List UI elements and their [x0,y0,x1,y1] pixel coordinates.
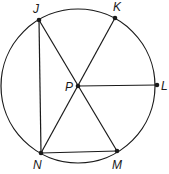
label-k: K [113,0,122,14]
segment-nm [41,151,117,153]
point-m [115,149,120,154]
label-j: J [32,2,40,16]
segment-pl [78,85,157,86]
point-p [76,84,81,89]
diagram-canvas: JKPLNM [0,0,169,174]
label-p: P [65,80,73,94]
label-l: L [161,79,168,93]
segment-jn [39,20,41,153]
point-n [39,151,44,156]
label-m: M [112,158,122,172]
point-j [37,18,42,23]
point-k [113,16,118,21]
label-n: N [33,158,42,172]
geometry-diagram: JKPLNM [0,0,169,174]
point-l [155,83,160,88]
